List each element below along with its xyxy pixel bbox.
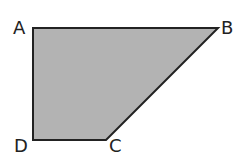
vertex-label-d: D	[14, 135, 28, 156]
shape-abcd	[33, 28, 218, 140]
vertex-label-c: C	[109, 135, 122, 156]
quadrilateral-diagram: A B C D	[0, 0, 247, 162]
vertex-label-a: A	[13, 17, 26, 38]
vertex-label-b: B	[221, 17, 233, 38]
